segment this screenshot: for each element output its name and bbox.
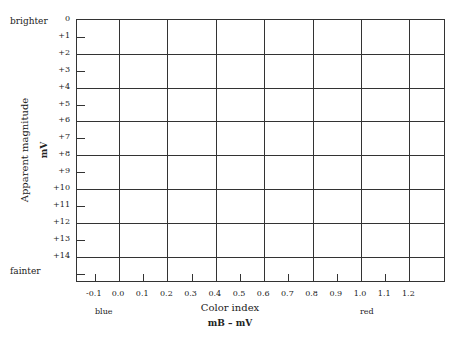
grid-vline (216, 20, 217, 281)
y-tick-label: +6 (46, 115, 70, 124)
x-tick-label: 0.6 (251, 289, 275, 298)
grid-vline (313, 20, 314, 281)
fainter-label: fainter (10, 266, 41, 276)
grid-hline (77, 155, 444, 156)
x-minor-tick (240, 274, 241, 281)
x-tick-label: 0.7 (275, 289, 299, 298)
y-minor-tick (77, 206, 85, 207)
grid-vline (119, 20, 120, 281)
grid-hline (77, 88, 444, 89)
y-tick-label: +2 (46, 48, 70, 57)
x-tick-label: 0.5 (227, 289, 251, 298)
y-tick-label: +1 (46, 31, 70, 40)
y-minor-tick (77, 71, 85, 72)
y-tick-label: +10 (46, 183, 70, 192)
y-minor-tick (77, 274, 85, 275)
blue-label: blue (95, 307, 113, 317)
y-minor-tick (77, 138, 85, 139)
y-tick-label: +4 (46, 82, 70, 91)
y-tick-label: +3 (46, 65, 70, 74)
grid-vline (409, 20, 410, 281)
grid-hline (77, 189, 444, 190)
x-minor-tick (192, 274, 193, 281)
x-axis-subtitle: mB – mV (208, 318, 252, 328)
x-minor-tick (95, 274, 96, 281)
x-minor-tick (385, 274, 386, 281)
y-tick-label: +9 (46, 166, 70, 175)
grid-hline (77, 121, 444, 122)
y-minor-tick (77, 172, 85, 173)
y-tick-label: +11 (46, 200, 70, 209)
grid-vline (361, 20, 362, 281)
y-tick-label: +12 (46, 217, 70, 226)
brighter-label: brighter (10, 16, 48, 26)
x-tick-label: 0.9 (324, 289, 348, 298)
y-tick-label: +8 (46, 149, 70, 158)
x-minor-tick (288, 274, 289, 281)
grid-vline (167, 20, 168, 281)
x-tick-label: 1.1 (372, 289, 396, 298)
y-minor-tick (77, 240, 85, 241)
x-tick-label: 0.0 (106, 289, 130, 298)
x-tick-label: 0.1 (130, 289, 154, 298)
red-label: red (360, 307, 374, 317)
x-tick-label: 0.8 (300, 289, 324, 298)
grid-hline (77, 54, 444, 55)
grid-vline (264, 20, 265, 281)
y-minor-tick (77, 105, 85, 106)
x-tick-label: 0.4 (203, 289, 227, 298)
x-minor-tick (143, 274, 144, 281)
y-tick-label: +13 (46, 234, 70, 243)
x-minor-tick (337, 274, 338, 281)
x-tick-label: 1.0 (348, 289, 372, 298)
y-tick-label: 0 (46, 14, 70, 23)
x-tick-label: -0.1 (82, 289, 106, 298)
x-tick-label: 0.3 (179, 289, 203, 298)
grid-hline (77, 223, 444, 224)
y-minor-tick (77, 37, 85, 38)
grid-hline (77, 257, 444, 258)
y-tick-label: +7 (46, 132, 70, 141)
y-axis-title: Apparent magnitude (19, 98, 30, 203)
y-tick-label: +14 (46, 251, 70, 260)
y-tick-label: +5 (46, 99, 70, 108)
x-tick-label: 0.2 (154, 289, 178, 298)
x-tick-label: 1.2 (396, 289, 420, 298)
plot-area (76, 19, 445, 282)
x-axis-title: Color index (201, 302, 259, 313)
